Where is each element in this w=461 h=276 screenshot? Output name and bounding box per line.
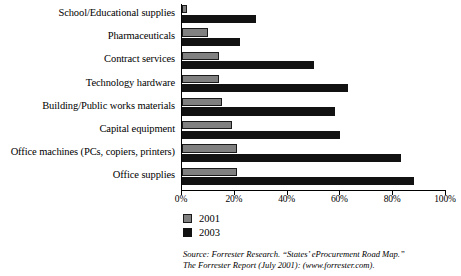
x-axis-tick-label: 60% (319, 194, 359, 204)
legend-swatch-2003 (183, 228, 192, 237)
bar-2001 (182, 5, 187, 13)
bar-2003 (182, 84, 348, 92)
bar-2001 (182, 144, 237, 152)
source-line-2: The Forrester Report (July 2001): (www.f… (183, 260, 445, 271)
x-axis-tick-label: 40% (267, 194, 307, 204)
bar-2001 (182, 168, 237, 176)
legend-label-2003: 2003 (199, 227, 220, 238)
x-axis-tick-label: 100% (425, 194, 461, 204)
bar-2003 (182, 131, 340, 139)
x-axis-tick-label: 0% (161, 194, 201, 204)
bar-2001 (182, 52, 219, 60)
bar-2001 (182, 28, 208, 36)
category-label: Pharmaceuticals (108, 30, 175, 42)
category-label: Technology hardware (86, 77, 175, 89)
bar-2003 (182, 38, 240, 46)
category-label: Office machines (PCs, copiers, printers) (11, 146, 175, 158)
category-label: Capital equipment (99, 123, 175, 135)
chart-category-row: Contract services (0, 50, 447, 73)
source-note: Source: Forrester Research. “States’ ePr… (183, 249, 445, 271)
bar-2003 (182, 154, 401, 162)
bar-2001 (182, 121, 232, 129)
x-axis-line (181, 190, 446, 191)
category-label: Building/Public works materials (42, 100, 175, 112)
bar-2003 (182, 15, 256, 23)
legend-swatch-2001 (183, 214, 192, 223)
x-axis-tick-label: 80% (372, 194, 412, 204)
chart-category-row: Pharmaceuticals (0, 27, 447, 50)
chart-legend: 2001 2003 (183, 211, 220, 239)
x-axis-tick-label: 20% (214, 194, 254, 204)
bar-2003 (182, 107, 335, 115)
source-line-1: Source: Forrester Research. “States’ ePr… (183, 249, 445, 260)
chart-category-row: Office machines (PCs, copiers, printers) (0, 143, 447, 166)
bar-2003 (182, 61, 314, 69)
bar-2001 (182, 75, 219, 83)
category-label: Contract services (104, 53, 175, 65)
bar-2003 (182, 177, 414, 185)
chart-category-row: Technology hardware (0, 74, 447, 97)
chart-category-row: Office supplies (0, 166, 447, 189)
bar-2001 (182, 98, 222, 106)
legend-item-2003: 2003 (183, 225, 220, 239)
chart-category-row: Capital equipment (0, 120, 447, 143)
legend-item-2001: 2001 (183, 211, 220, 225)
chart-category-row: School/Educational supplies (0, 4, 447, 27)
category-label: School/Educational supplies (58, 7, 175, 19)
category-label: Office supplies (113, 169, 175, 181)
legend-label-2001: 2001 (199, 213, 220, 224)
chart-category-row: Building/Public works materials (0, 97, 447, 120)
